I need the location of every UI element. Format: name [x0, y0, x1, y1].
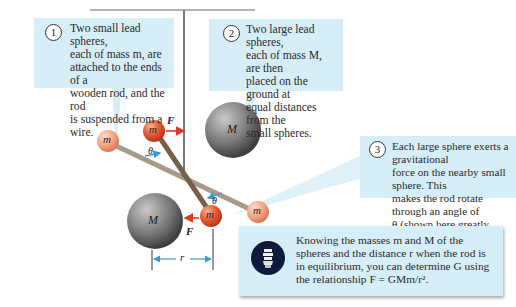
step-number-3: 3	[369, 141, 386, 158]
label-F-bottom: F	[186, 225, 193, 237]
step-number-2: 2	[223, 25, 240, 42]
tip-text: Knowing the masses m and M of the sphere…	[296, 234, 495, 286]
callout-step-2-text: Two large lead spheres, each of mass M, …	[246, 23, 339, 140]
callout-step-1-text: Two small lead spheres, each of mass m, …	[70, 22, 170, 139]
label-m-bottom: m	[206, 208, 214, 220]
label-M-bottom: M	[148, 213, 158, 228]
label-theta-bottom: θ	[212, 195, 217, 206]
tip-box: Knowing the masses m and M of the sphere…	[239, 226, 503, 296]
callout-step-1: 1 Two small lead spheres, each of mass m…	[34, 18, 174, 88]
label-r: r	[180, 251, 184, 263]
label-theta-top: θ	[148, 145, 153, 156]
step-number-1: 1	[45, 24, 62, 41]
label-M-top: M	[227, 122, 237, 137]
lightbulb-icon	[251, 241, 285, 275]
callout-step-2: 2 Two large lead spheres, each of mass M…	[209, 19, 343, 91]
callout-step-3: 3 Each large sphere exerts a gravitation…	[360, 136, 516, 198]
label-m-right: m	[253, 204, 261, 216]
